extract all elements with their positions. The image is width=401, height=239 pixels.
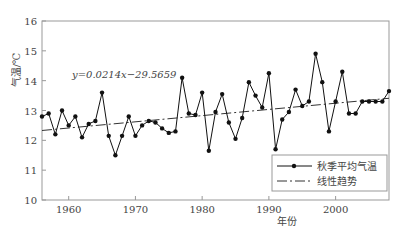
data-point <box>180 75 184 79</box>
data-point <box>153 120 157 124</box>
data-point <box>200 90 204 94</box>
data-point <box>207 149 211 153</box>
data-point <box>133 134 137 138</box>
temperature-chart: 1011121314151619601970198019902000气温/℃年份… <box>0 0 401 239</box>
y-axis-label: 气温/℃ <box>10 53 22 88</box>
y-tick-label: 13 <box>24 106 37 117</box>
data-point <box>267 71 271 75</box>
y-tick-label: 16 <box>24 16 37 27</box>
data-point <box>113 153 117 157</box>
data-point <box>340 70 344 74</box>
data-point <box>160 126 164 130</box>
y-tick-label: 10 <box>24 195 37 206</box>
data-point <box>333 99 337 103</box>
x-tick-label: 1970 <box>123 204 148 215</box>
data-point <box>127 114 131 118</box>
x-tick-label: 1980 <box>189 204 214 215</box>
data-point <box>80 135 84 139</box>
regression-equation: y=0.0214x−29.5659 <box>71 69 177 80</box>
data-point <box>120 134 124 138</box>
data-point <box>187 111 191 115</box>
data-point <box>233 137 237 141</box>
data-point <box>167 131 171 135</box>
data-point <box>353 111 357 115</box>
data-point <box>360 99 364 103</box>
data-point <box>107 134 111 138</box>
data-point <box>253 93 257 97</box>
data-point <box>100 90 104 94</box>
data-point <box>220 92 224 96</box>
x-tick-label: 2000 <box>323 204 348 215</box>
y-tick-label: 15 <box>24 46 37 57</box>
data-point <box>260 105 264 109</box>
data-point <box>73 114 77 118</box>
legend-label-series2: 线性趋势 <box>317 175 357 187</box>
data-point <box>53 132 57 136</box>
data-point <box>320 80 324 84</box>
data-point <box>46 111 50 115</box>
data-point <box>240 116 244 120</box>
data-point <box>347 111 351 115</box>
data-point <box>367 99 371 103</box>
data-point <box>300 104 304 108</box>
legend-label-series1: 秋季平均气温 <box>317 160 377 172</box>
data-point <box>140 123 144 127</box>
data-point <box>93 119 97 123</box>
data-point <box>173 129 177 133</box>
data-point <box>373 99 377 103</box>
data-point <box>380 99 384 103</box>
y-tick-label: 11 <box>24 165 37 176</box>
x-axis-label: 年份 <box>277 215 297 227</box>
y-tick-label: 12 <box>24 135 37 146</box>
y-tick-label: 14 <box>24 76 37 87</box>
data-point <box>40 114 44 118</box>
data-point <box>273 147 277 151</box>
data-point <box>387 89 391 93</box>
data-point <box>293 87 297 91</box>
x-tick-label: 1990 <box>256 204 281 215</box>
data-point <box>147 119 151 123</box>
data-point <box>213 110 217 114</box>
data-point <box>227 120 231 124</box>
data-point <box>280 117 284 121</box>
data-point <box>327 129 331 133</box>
data-point <box>247 80 251 84</box>
data-point <box>313 52 317 56</box>
x-tick-label: 1960 <box>56 204 81 215</box>
data-point <box>287 110 291 114</box>
data-point <box>193 113 197 117</box>
data-point <box>307 99 311 103</box>
data-point <box>87 122 91 126</box>
data-point <box>60 108 64 112</box>
legend-marker-series1 <box>292 164 296 168</box>
data-point <box>66 123 70 127</box>
